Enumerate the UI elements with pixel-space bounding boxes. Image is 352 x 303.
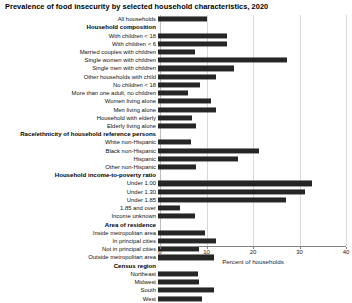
category-header-label: Race/ethnicity of household reference pe… <box>0 131 158 137</box>
bar <box>158 280 199 285</box>
category-header-row: Household composition <box>0 23 352 31</box>
bar-row: Married couples with children <box>0 48 352 56</box>
bar <box>158 123 196 128</box>
bar-cell <box>158 64 352 72</box>
bar-cell <box>158 48 352 56</box>
bar <box>158 33 227 38</box>
bar-cell <box>158 270 352 278</box>
bar <box>158 17 207 22</box>
tick-label-40: 40 <box>343 249 350 255</box>
bar-row: Hispanic <box>0 155 352 163</box>
bar <box>158 271 198 276</box>
bar-row: In principal cities <box>0 237 352 245</box>
bar-cell <box>158 15 352 23</box>
bar-row: Inside metropolitan area <box>0 229 352 237</box>
bar-cell <box>158 229 352 237</box>
bar <box>158 107 216 112</box>
bar-row-label: Other non-Hispanic <box>0 164 158 170</box>
bar-row: Under 1.85 <box>0 196 352 204</box>
bar-row: Household with elderly <box>0 114 352 122</box>
bar <box>158 165 196 170</box>
bar-cell <box>158 31 352 39</box>
bar <box>158 99 211 104</box>
bar-cell <box>158 163 352 171</box>
bar-cell <box>158 130 352 138</box>
category-header-row: Race/ethnicity of household reference pe… <box>0 130 352 138</box>
bar-cell <box>158 56 352 64</box>
bar-row-label: With children < 18 <box>0 33 158 39</box>
tick-label-20: 20 <box>250 249 257 255</box>
bar-row-label: Hispanic <box>0 156 158 162</box>
bar-row-label: Single women with children <box>0 57 158 63</box>
category-header-label: Household composition <box>0 24 158 30</box>
bar-row: Elderly living alone <box>0 122 352 130</box>
bar-cell <box>158 278 352 286</box>
category-header-label: Area of residence <box>0 222 158 228</box>
bar-cell <box>158 179 352 187</box>
bar-row: Black non-Hispanic <box>0 147 352 155</box>
bar <box>158 91 188 96</box>
bar-row: Women living alone <box>0 97 352 105</box>
bar-row-label: With children < 6 <box>0 41 158 47</box>
bar <box>158 189 305 194</box>
plot-area: All householdsHousehold compositionWith … <box>0 15 352 251</box>
bar-row-label: Under 1.00 <box>0 180 158 186</box>
bar-row-label: More than one adult, no children <box>0 90 158 96</box>
bar-cell <box>158 114 352 122</box>
bar <box>158 82 200 87</box>
bar-cell <box>158 40 352 48</box>
bar-cell <box>158 81 352 89</box>
bar-row-label: White non-Hispanic <box>0 139 158 145</box>
bar <box>158 148 259 153</box>
bar-row: Other households with child <box>0 73 352 81</box>
bar-cell <box>158 286 352 294</box>
bar-row-label: Elderly living alone <box>0 123 158 129</box>
bar-row-label: Single men with children <box>0 65 158 71</box>
bar-cell <box>158 138 352 146</box>
bar-row-label: West <box>0 296 158 302</box>
bar <box>158 74 216 79</box>
bar <box>158 181 312 186</box>
bar-cell <box>158 105 352 113</box>
bar-row-label: Under 1.30 <box>0 189 158 195</box>
bar <box>158 49 195 54</box>
bar-cell <box>158 89 352 97</box>
bar-row: Other non-Hispanic <box>0 163 352 171</box>
bar-row-label: Midwest <box>0 279 158 285</box>
bar-cell <box>158 196 352 204</box>
bar <box>158 140 191 145</box>
bar-row: With children < 6 <box>0 40 352 48</box>
bar-row-label: All households <box>0 16 158 22</box>
bar-row-label: In principal cities <box>0 238 158 244</box>
bar <box>158 206 180 211</box>
bar-cell <box>158 147 352 155</box>
bar-cell <box>158 212 352 220</box>
bar-row: With children < 18 <box>0 31 352 39</box>
bar-cell <box>158 73 352 81</box>
bar-row: West <box>0 294 352 302</box>
bar-row-label: Under 1.85 <box>0 197 158 203</box>
bar-cell <box>158 204 352 212</box>
bar-row-label: Married couples with children <box>0 49 158 55</box>
bar-cell <box>158 97 352 105</box>
category-header-label: Household income-to-poverty ratio <box>0 172 158 178</box>
bar-row-label: 1.85 and over <box>0 205 158 211</box>
bar-row: Income unknown <box>0 212 352 220</box>
bar-row: Northeast <box>0 270 352 278</box>
bar-row: No children < 18 <box>0 81 352 89</box>
bar-cell <box>158 155 352 163</box>
bar-row: More than one adult, no children <box>0 89 352 97</box>
bar-row: Midwest <box>0 278 352 286</box>
bar-row: All households <box>0 15 352 23</box>
bar-cell <box>158 294 352 302</box>
bar <box>158 214 195 219</box>
bar-row-label: No children < 18 <box>0 82 158 88</box>
bar-cell <box>158 188 352 196</box>
x-axis-label: Percent of households <box>222 258 284 265</box>
tick-label-10: 10 <box>203 249 210 255</box>
bar <box>158 66 234 71</box>
bar <box>158 296 202 301</box>
bar-row-label: Men living alone <box>0 107 158 113</box>
bar-row: Single women with children <box>0 56 352 64</box>
tick-label-0: 0 <box>158 249 161 255</box>
